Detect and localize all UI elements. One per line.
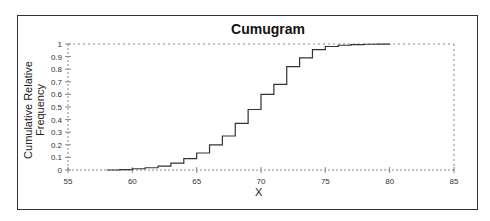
y-tick-label: 0.4 bbox=[51, 116, 63, 125]
cumugram-plot: 00.10.20.30.40.50.60.70.80.91 5560657075… bbox=[0, 0, 490, 221]
y-tick-label: 0 bbox=[58, 166, 63, 175]
x-tick-label: 80 bbox=[385, 177, 394, 186]
y-tick-label: 0.5 bbox=[51, 103, 63, 112]
y-tick-label: 0.7 bbox=[51, 78, 63, 87]
y-tick-label: 0.9 bbox=[51, 53, 63, 62]
y-tick-label: 0.1 bbox=[51, 153, 63, 162]
y-tick-label: 0.8 bbox=[51, 65, 63, 74]
x-tick-label: 60 bbox=[128, 177, 137, 186]
y-tick-label: 1 bbox=[58, 40, 63, 49]
y-axis: 00.10.20.30.40.50.60.70.80.91 bbox=[51, 40, 71, 175]
y-tick-label: 0.3 bbox=[51, 128, 63, 137]
y-tick-label: 0.6 bbox=[51, 90, 63, 99]
x-tick-label: 55 bbox=[64, 177, 73, 186]
x-tick-label: 65 bbox=[192, 177, 201, 186]
x-tick-label: 75 bbox=[321, 177, 330, 186]
y-tick-label: 0.2 bbox=[51, 141, 63, 150]
cumulative-step-line bbox=[107, 44, 390, 170]
x-tick-label: 85 bbox=[450, 177, 459, 186]
x-tick-label: 70 bbox=[257, 177, 266, 186]
